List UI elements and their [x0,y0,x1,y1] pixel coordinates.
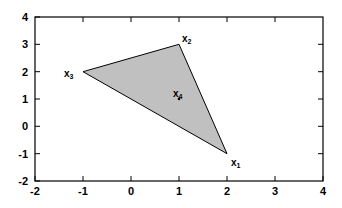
label-x1-sub: 1 [237,162,241,169]
label-x3-sub: 3 [70,73,74,80]
x-tick-label--2: -2 [30,186,40,197]
figure-canvas: -2 -1 0 1 2 3 4 4 3 2 1 0 -1 -2 x1 x2 x3… [0,0,342,208]
y-tick-label--1: -1 [18,148,28,159]
label-x4-sub: 4 [179,93,183,100]
label-x4-base: x [173,88,179,99]
data-point-label-x2: x2 [182,34,191,44]
y-tick-label--2: -2 [18,176,28,187]
label-x1-base: x [231,157,237,168]
x-tick-label-2: 2 [224,186,230,197]
y-tick-label-4: 4 [22,12,28,23]
y-tick-label-0: 0 [22,121,28,132]
label-x2-base: x [182,33,188,44]
x-tick-label-0: 0 [128,186,134,197]
y-tick-label-3: 3 [22,39,28,50]
x-tick-label-3: 3 [272,186,278,197]
x-tick-label--1: -1 [78,186,88,197]
y-tick-label-1: 1 [22,94,28,105]
y-tick-label-2: 2 [22,66,28,77]
data-point-label-x4: x4 [173,89,182,99]
data-point-label-x3: x3 [64,69,73,79]
plot-area [0,0,342,208]
x-tick-label-1: 1 [176,186,182,197]
label-x3-base: x [64,68,70,79]
x-tick-label-4: 4 [320,186,326,197]
label-x2-sub: 2 [188,38,192,45]
data-point-label-x1: x1 [231,158,240,168]
